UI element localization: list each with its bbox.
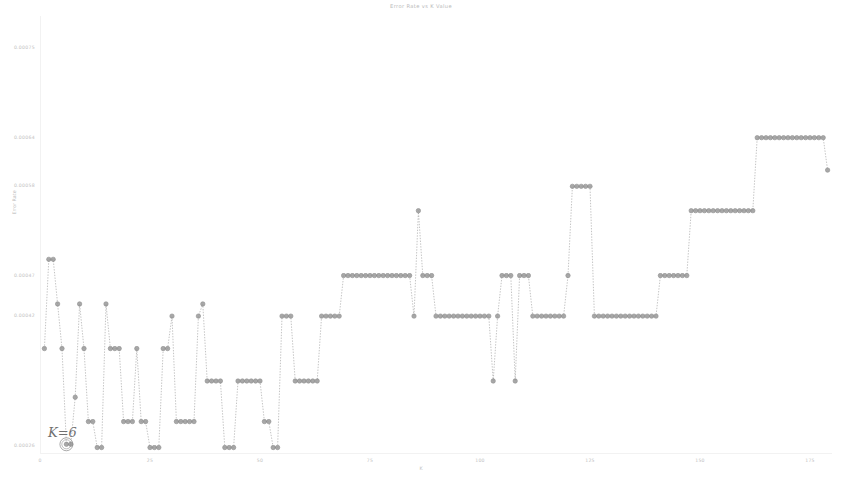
- data-point-marker: [108, 346, 112, 350]
- data-point-marker: [456, 314, 460, 318]
- data-point-marker: [319, 314, 323, 318]
- data-point-marker: [55, 302, 59, 306]
- data-point-marker: [447, 314, 451, 318]
- data-point-marker: [561, 314, 565, 318]
- data-point-marker: [601, 314, 605, 318]
- data-point-marker: [73, 395, 77, 399]
- data-point-marker: [187, 419, 191, 423]
- data-point-marker: [768, 135, 772, 139]
- x-tick-label: 0: [25, 458, 55, 463]
- data-point-marker: [645, 314, 649, 318]
- data-point-marker: [707, 208, 711, 212]
- data-point-marker: [297, 379, 301, 383]
- data-point-marker: [434, 314, 438, 318]
- data-point-marker: [614, 314, 618, 318]
- data-point-marker: [425, 273, 429, 277]
- data-point-marker: [161, 346, 165, 350]
- data-point-marker: [526, 273, 530, 277]
- data-point-marker: [126, 419, 130, 423]
- data-point-marker: [148, 445, 152, 449]
- data-point-marker: [403, 273, 407, 277]
- plot-area: [40, 16, 832, 454]
- data-point-marker: [495, 314, 499, 318]
- y-tick-label: 0.00026: [0, 443, 35, 448]
- data-point-marker: [685, 273, 689, 277]
- data-point-marker: [355, 273, 359, 277]
- data-point-marker: [135, 346, 139, 350]
- data-point-marker: [777, 135, 781, 139]
- data-point-marker: [51, 257, 55, 261]
- data-point-marker: [509, 273, 513, 277]
- data-point-marker: [817, 135, 821, 139]
- data-point-marker: [575, 184, 579, 188]
- data-point-marker: [482, 314, 486, 318]
- y-tick-label: 0.00064: [0, 135, 35, 140]
- data-point-marker: [641, 314, 645, 318]
- data-point-marker: [588, 184, 592, 188]
- data-point-marker: [729, 208, 733, 212]
- data-point-marker: [733, 208, 737, 212]
- data-point-marker: [654, 314, 658, 318]
- data-point-marker: [82, 346, 86, 350]
- x-tick-label: 150: [685, 458, 715, 463]
- data-point-marker: [236, 379, 240, 383]
- data-point-marker: [60, 346, 64, 350]
- x-tick-label: 75: [355, 458, 385, 463]
- data-point-marker: [328, 314, 332, 318]
- data-point-marker: [469, 314, 473, 318]
- data-point-marker: [214, 379, 218, 383]
- data-point-marker: [372, 273, 376, 277]
- data-point-marker: [557, 314, 561, 318]
- data-point-marker: [289, 314, 293, 318]
- data-point-marker: [764, 135, 768, 139]
- data-point-marker: [786, 135, 790, 139]
- data-point-marker: [390, 273, 394, 277]
- data-point-marker: [548, 314, 552, 318]
- data-point-marker: [636, 314, 640, 318]
- data-point-marker: [192, 419, 196, 423]
- data-point-marker: [808, 135, 812, 139]
- data-point-marker: [174, 419, 178, 423]
- data-point-marker: [280, 314, 284, 318]
- k6-annotation-label: K=6: [48, 425, 77, 440]
- data-point-marker: [658, 273, 662, 277]
- data-point-marker: [201, 302, 205, 306]
- data-point-marker: [702, 208, 706, 212]
- data-point-marker: [42, 346, 46, 350]
- data-point-marker: [627, 314, 631, 318]
- data-point-marker: [205, 379, 209, 383]
- data-point-marker: [399, 273, 403, 277]
- data-point-marker: [302, 379, 306, 383]
- data-point-marker: [179, 419, 183, 423]
- data-point-marker: [583, 184, 587, 188]
- data-point-marker: [781, 135, 785, 139]
- data-point-marker: [649, 314, 653, 318]
- data-point-marker: [790, 135, 794, 139]
- data-point-marker: [632, 314, 636, 318]
- data-point-marker: [99, 445, 103, 449]
- data-point-marker: [795, 135, 799, 139]
- data-point-marker: [522, 273, 526, 277]
- data-point-marker: [77, 302, 81, 306]
- data-point-marker: [579, 184, 583, 188]
- data-point-marker: [95, 445, 99, 449]
- data-point-marker: [487, 314, 491, 318]
- data-point-marker: [443, 314, 447, 318]
- data-point-marker: [359, 273, 363, 277]
- data-point-marker: [421, 273, 425, 277]
- data-point-marker: [183, 419, 187, 423]
- data-point-marker: [742, 208, 746, 212]
- data-point-marker: [293, 379, 297, 383]
- data-point-marker: [275, 445, 279, 449]
- data-point-marker: [746, 208, 750, 212]
- data-point-marker: [619, 314, 623, 318]
- data-point-marker: [130, 419, 134, 423]
- data-point-marker: [597, 314, 601, 318]
- x-axis-label: K: [0, 466, 842, 471]
- data-point-marker: [267, 419, 271, 423]
- data-point-marker: [117, 346, 121, 350]
- data-point-marker: [460, 314, 464, 318]
- data-point-marker: [121, 419, 125, 423]
- data-point-marker: [799, 135, 803, 139]
- data-point-marker: [500, 273, 504, 277]
